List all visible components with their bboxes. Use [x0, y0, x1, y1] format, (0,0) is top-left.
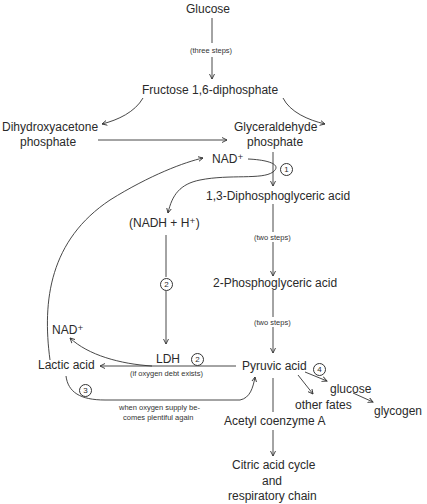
node-citric-acid-cycle-line3: respiratory chain — [228, 489, 317, 503]
label-oxygen-supply-line1: when oxygen supply be- — [119, 403, 200, 412]
node-glyceraldehyde-phosphate-line2: phosphate — [247, 135, 303, 149]
node-glucose: Glucose — [186, 2, 230, 16]
node-citric-acid-cycle-line1: Citric acid cycle — [232, 458, 315, 472]
node-nad-top: NAD⁺ — [212, 152, 244, 166]
node-dihydroxyacetone-phosphate-line1: Dihydroxyacetone — [2, 120, 98, 134]
step-marker-4: 4 — [313, 363, 326, 376]
label-oxygen-debt: (if oxygen debt exists) — [130, 369, 203, 378]
node-pyruvic-acid: Pyruvic acid — [242, 359, 307, 373]
label-three-steps: (three steps) — [190, 46, 232, 55]
node-glyceraldehyde-phosphate-line1: Glyceraldehyde — [234, 120, 317, 134]
node-acetyl-coenzyme-a: Acetyl coenzyme A — [224, 414, 325, 428]
label-two-steps-1: (two steps) — [254, 233, 291, 242]
node-glycogen: glycogen — [374, 404, 422, 418]
node-dihydroxyacetone-phosphate-line2: phosphate — [20, 135, 76, 149]
node-ldh: LDH — [156, 352, 180, 366]
node-glucose-fate: glucose — [330, 382, 371, 396]
node-nadh: (NADH + H⁺) — [129, 216, 200, 230]
pathway-arrows — [0, 0, 427, 504]
node-lactic-acid: Lactic acid — [38, 358, 95, 372]
node-other-fates: other fates — [295, 398, 352, 412]
label-oxygen-supply-line2: comes plentiful again — [123, 413, 193, 422]
node-2-phosphoglyceric-acid: 2-Phosphoglyceric acid — [213, 276, 337, 290]
node-citric-acid-cycle-line2: and — [262, 474, 282, 488]
step-marker-2a: 2 — [160, 278, 173, 291]
node-fructose-diphosphate: Fructose 1,6-diphosphate — [142, 83, 278, 97]
node-1-3-diphosphoglyceric-acid: 1,3-Diphosphoglyceric acid — [206, 189, 350, 203]
step-marker-1: 1 — [280, 163, 293, 176]
step-marker-3: 3 — [79, 384, 92, 397]
step-marker-2b: 2 — [191, 353, 204, 366]
label-two-steps-2: (two steps) — [254, 318, 291, 327]
node-nad-left: NAD⁺ — [52, 323, 84, 337]
